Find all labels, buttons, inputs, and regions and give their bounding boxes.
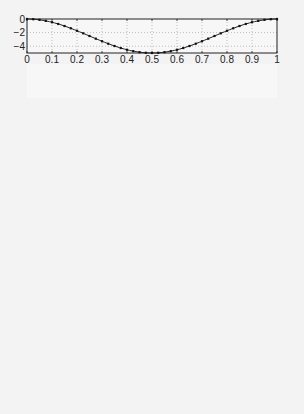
x-tick-label: 0	[24, 54, 30, 65]
data-marker	[220, 32, 222, 34]
data-marker	[188, 45, 190, 47]
data-marker	[257, 20, 259, 22]
y-tick-label: 0	[19, 14, 25, 25]
x-tick-label: 0.5	[145, 54, 159, 65]
data-marker	[101, 40, 103, 42]
data-marker	[270, 18, 272, 20]
data-marker	[195, 43, 197, 45]
data-marker	[88, 35, 90, 37]
data-marker	[57, 23, 59, 25]
data-marker	[120, 47, 122, 49]
data-marker	[38, 19, 40, 21]
x-tick-label: 0.6	[170, 54, 184, 65]
data-marker	[238, 25, 240, 27]
data-marker	[45, 20, 47, 22]
x-tick-label: 1	[274, 54, 280, 65]
data-marker	[26, 18, 28, 20]
data-marker	[138, 51, 140, 53]
data-marker	[76, 30, 78, 32]
x-tick-label: 0.2	[70, 54, 84, 65]
x-tick-label: 0.7	[195, 54, 209, 65]
x-tick-label: 0.1	[45, 54, 59, 65]
x-tick-label: 0.3	[95, 54, 109, 65]
data-marker	[163, 51, 165, 53]
data-marker	[82, 32, 84, 34]
data-marker	[276, 18, 278, 20]
data-marker	[51, 21, 53, 23]
figure: 00.10.20.30.40.50.60.70.80.910−2−4	[0, 0, 304, 414]
subplots-figure: 00.10.20.30.40.50.60.70.80.910−2−4	[0, 0, 304, 414]
data-marker	[176, 49, 178, 51]
data-marker	[107, 43, 109, 45]
subplot-2	[27, 64, 277, 98]
data-marker	[201, 40, 203, 42]
data-marker	[70, 27, 72, 29]
data-marker	[63, 25, 65, 27]
data-marker	[145, 52, 147, 54]
data-marker	[157, 52, 159, 54]
subplot-1: 00.10.20.30.40.50.60.70.80.910−2−4	[14, 14, 281, 66]
data-marker	[126, 49, 128, 51]
y-tick-label: −4	[14, 41, 26, 52]
x-tick-label: 0.4	[120, 54, 134, 65]
data-marker	[95, 38, 97, 40]
data-marker	[132, 50, 134, 52]
data-marker	[263, 19, 265, 21]
data-marker	[113, 45, 115, 47]
x-tick-label: 0.9	[245, 54, 259, 65]
data-marker	[226, 30, 228, 32]
data-marker	[245, 23, 247, 25]
data-marker	[207, 38, 209, 40]
data-marker	[151, 52, 153, 54]
data-marker	[213, 35, 215, 37]
y-tick-label: −2	[14, 27, 26, 38]
data-marker	[182, 47, 184, 49]
data-marker	[170, 50, 172, 52]
data-marker	[232, 27, 234, 29]
x-tick-label: 0.8	[220, 54, 234, 65]
data-marker	[251, 21, 253, 23]
data-marker	[32, 18, 34, 20]
